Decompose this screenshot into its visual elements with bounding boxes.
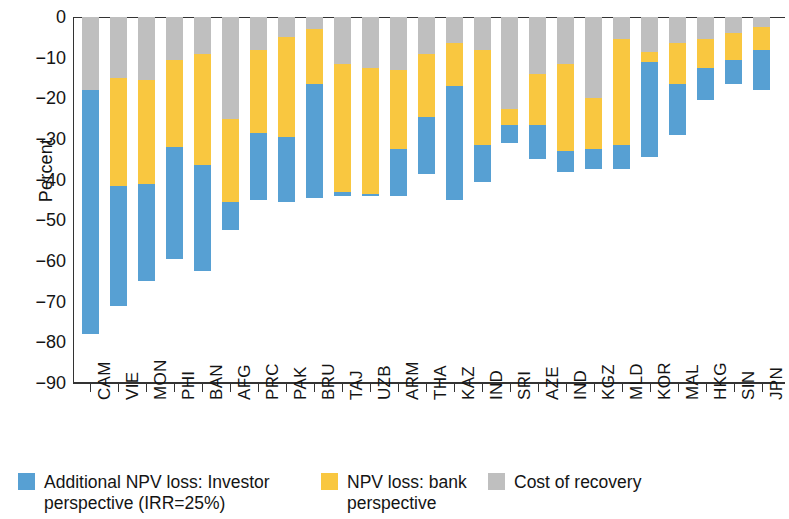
bar-segment-blue	[501, 125, 518, 143]
y-tick-label: −10	[18, 49, 66, 67]
x-tick-mark	[426, 383, 427, 392]
x-tick-label: BAN	[208, 364, 225, 400]
bar-segment-blue	[362, 194, 379, 196]
bar-segment-yellow	[222, 119, 239, 202]
bar-kor-20	[641, 17, 658, 157]
bar-segment-blue	[753, 50, 770, 91]
bar-segment-blue	[278, 137, 295, 202]
bar-sin-23	[725, 17, 742, 84]
y-axis-tick-labels: 0−10−20−30−40−50−60−70−80−90	[8, 0, 66, 519]
bar-segment-gray	[82, 17, 99, 90]
bar-segment-gray	[306, 17, 323, 29]
y-tick-label: −90	[18, 374, 66, 392]
bar-segment-blue	[250, 133, 267, 200]
bar-segment-yellow	[362, 68, 379, 194]
bar-segment-yellow	[390, 70, 407, 149]
x-tick-mark	[510, 383, 511, 392]
bar-ind-14	[474, 17, 491, 182]
y-tick-label: −30	[18, 130, 66, 148]
bar-segment-yellow	[418, 54, 435, 117]
bar-segment-blue	[613, 145, 630, 169]
x-tick-label: HKG	[712, 362, 729, 400]
x-tick-label: SIN	[740, 371, 757, 400]
bar-segment-gray	[222, 17, 239, 119]
bar-segment-gray	[753, 17, 770, 27]
bar-segment-yellow	[110, 78, 127, 186]
bar-segment-blue	[669, 84, 686, 135]
bar-segment-yellow	[334, 64, 351, 192]
bar-tha-12	[418, 17, 435, 174]
bar-segment-blue	[110, 186, 127, 306]
x-tick-mark	[678, 383, 679, 392]
bar-mal-21	[669, 17, 686, 135]
bar-taj-9	[334, 17, 351, 196]
legend-label: Additional NPV loss: Investor perspectiv…	[44, 472, 318, 514]
bar-arm-11	[390, 17, 407, 196]
bar-segment-blue	[641, 62, 658, 158]
bar-segment-gray	[334, 17, 351, 64]
bar-segment-gray	[557, 17, 574, 64]
bar-segment-blue	[529, 125, 546, 160]
bar-segment-yellow	[641, 52, 658, 62]
bar-ind-17	[557, 17, 574, 172]
bar-segment-blue	[557, 151, 574, 171]
bar-segment-gray	[362, 17, 379, 68]
bar-segment-yellow	[446, 43, 463, 86]
bar-segment-gray	[194, 17, 211, 54]
legend-label: Cost of recovery	[514, 472, 641, 493]
bar-segment-gray	[418, 17, 435, 54]
bar-segment-blue	[194, 165, 211, 271]
bar-segment-gray	[390, 17, 407, 70]
x-tick-label: UZB	[376, 365, 393, 400]
legend-swatch-gray-icon	[488, 473, 505, 490]
bar-prc-6	[250, 17, 267, 200]
bar-segment-gray	[501, 17, 518, 109]
x-tick-mark	[370, 383, 371, 392]
x-tick-mark	[594, 383, 595, 392]
bar-segment-gray	[166, 17, 183, 60]
bar-segment-yellow	[306, 29, 323, 84]
bar-segment-blue	[446, 86, 463, 200]
x-tick-label: IND	[488, 370, 505, 400]
x-tick-mark	[314, 383, 315, 392]
bar-segment-yellow	[613, 39, 630, 145]
bar-segment-gray	[474, 17, 491, 50]
bar-segment-blue	[334, 192, 351, 196]
x-tick-label: VIE	[124, 372, 141, 400]
bar-aze-16	[529, 17, 546, 159]
x-tick-label: KOR	[656, 362, 673, 400]
bar-cam-0	[82, 17, 99, 334]
x-tick-mark	[650, 383, 651, 392]
x-tick-label: BRU	[320, 363, 337, 400]
bar-segment-yellow	[585, 98, 602, 149]
chart-legend: Additional NPV loss: Investor perspectiv…	[18, 472, 778, 518]
x-tick-mark	[342, 383, 343, 392]
x-tick-mark	[286, 383, 287, 392]
bar-segment-blue	[697, 68, 714, 101]
y-tick-label: −40	[18, 171, 66, 189]
bar-segment-yellow	[557, 64, 574, 151]
bar-segment-gray	[585, 17, 602, 98]
bar-segment-gray	[138, 17, 155, 80]
bar-segment-blue	[725, 60, 742, 84]
bar-segment-yellow	[669, 43, 686, 84]
x-tick-label: AZE	[544, 366, 561, 400]
x-tick-mark	[762, 383, 763, 392]
x-tick-mark	[202, 383, 203, 392]
x-tick-label: CAM	[96, 361, 113, 400]
y-tick-label: −60	[18, 252, 66, 270]
x-tick-mark	[118, 383, 119, 392]
x-tick-mark	[230, 383, 231, 392]
bar-segment-gray	[697, 17, 714, 39]
bar-kgz-18	[585, 17, 602, 169]
x-tick-label: PRC	[264, 363, 281, 400]
y-tick-label: −50	[18, 211, 66, 229]
bar-segment-gray	[446, 17, 463, 43]
bar-segment-blue	[390, 149, 407, 196]
bar-segment-yellow	[501, 109, 518, 125]
x-tick-mark	[482, 383, 483, 392]
bar-segment-blue	[166, 147, 183, 259]
bar-segment-blue	[474, 145, 491, 182]
bar-bru-8	[306, 17, 323, 198]
y-tick-label: −80	[18, 333, 66, 351]
